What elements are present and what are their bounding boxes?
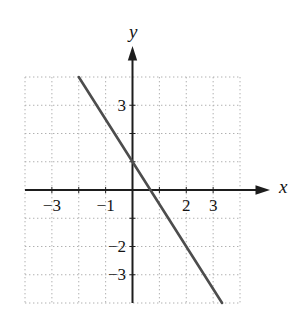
x-axis-arrowhead-icon [256, 185, 271, 194]
x-axis-label: x [279, 177, 287, 196]
y-tick-label: 3 [118, 96, 127, 115]
coordinate-plane-figure: −3−1233−2−3 y x [0, 0, 303, 327]
y-tick-label: −3 [108, 265, 126, 284]
x-tick-label: 2 [182, 196, 191, 215]
y-tick-label: −2 [108, 237, 126, 256]
y-axis-arrowhead-icon [128, 46, 137, 61]
graph-canvas: −3−1233−2−3 [0, 0, 303, 327]
y-axis-label: y [129, 22, 137, 41]
x-tick-label: 3 [209, 196, 218, 215]
x-tick-label: −1 [97, 196, 115, 215]
x-tick-label: −3 [43, 196, 61, 215]
